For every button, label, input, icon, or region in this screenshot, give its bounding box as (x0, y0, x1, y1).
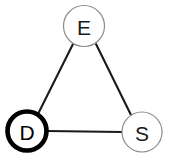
edge-e-d (38, 44, 73, 114)
node-s-label: S (135, 122, 149, 145)
graph-svg: E D S (0, 0, 169, 160)
node-d[interactable]: D (8, 112, 47, 151)
node-d-label: D (19, 121, 34, 144)
edge-e-s (96, 44, 131, 115)
node-e-label: E (77, 16, 91, 39)
graph-diagram-canvas: E D S (0, 0, 169, 160)
node-s[interactable]: S (122, 112, 162, 152)
node-e[interactable]: E (64, 6, 105, 47)
edge-d-s (47, 131, 122, 132)
edge-group (38, 44, 131, 132)
